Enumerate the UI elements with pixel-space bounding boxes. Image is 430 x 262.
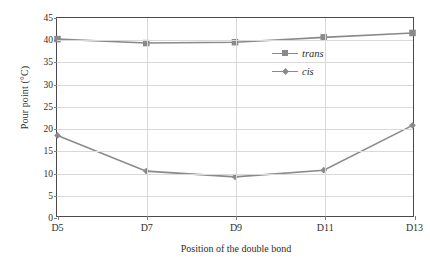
y-axis-tick-mark xyxy=(54,62,57,63)
chart-figure: Pour point (°C) 051015202530354045D5D7D9… xyxy=(0,0,430,262)
y-axis-tick-label: 5 xyxy=(48,191,53,201)
y-axis-tick-mark xyxy=(54,196,57,197)
series-trans xyxy=(54,30,416,47)
data-point-trans-D13[interactable] xyxy=(409,30,416,37)
y-axis-tick-mark xyxy=(54,40,57,41)
y-axis-tick-label: 10 xyxy=(44,169,54,179)
data-point-trans-D5[interactable] xyxy=(54,36,61,43)
x-axis-tick-mark xyxy=(58,216,59,220)
legend-label-cis: cis xyxy=(298,66,314,77)
y-axis-tick-mark xyxy=(54,85,57,86)
gridline-horizontal xyxy=(57,85,413,86)
x-axis-title: Position of the double bond xyxy=(56,243,416,254)
y-axis-tick-label: 15 xyxy=(44,146,54,156)
legend-item-trans[interactable]: trans xyxy=(272,44,358,62)
y-axis-tick-mark xyxy=(54,151,57,152)
y-axis-tick-mark xyxy=(54,107,57,108)
y-axis-tick-mark xyxy=(54,174,57,175)
x-axis-tick-mark xyxy=(415,216,416,220)
y-axis-tick-label: 20 xyxy=(44,124,54,134)
x-axis-tick-label: D13 xyxy=(406,222,423,233)
legend-label-trans: trans xyxy=(298,48,324,59)
gridline-horizontal xyxy=(57,129,413,130)
y-axis-title: Pour point (°C) xyxy=(19,28,30,168)
gridline-vertical xyxy=(147,18,148,216)
gridline-vertical xyxy=(236,18,237,216)
y-axis-tick-label: 45 xyxy=(44,13,54,23)
y-axis-tick-label: 25 xyxy=(44,102,54,112)
series-layer xyxy=(57,18,413,216)
square-marker-icon xyxy=(272,47,298,59)
diamond-marker-icon xyxy=(272,65,298,77)
legend-item-cis[interactable]: cis xyxy=(272,62,358,80)
x-axis-tick-label: D5 xyxy=(51,222,63,233)
x-axis-tick-label: D9 xyxy=(230,222,242,233)
data-point-cis-D5[interactable] xyxy=(54,132,61,139)
chart-legend: trans cis xyxy=(272,44,358,80)
y-axis-tick-label: 35 xyxy=(44,57,54,67)
plot-area: 051015202530354045D5D7D9D11D13 xyxy=(56,17,414,217)
x-axis-tick-mark xyxy=(325,216,326,220)
gridline-horizontal xyxy=(57,174,413,175)
x-axis-tick-label: D11 xyxy=(317,222,334,233)
y-axis-tick-mark xyxy=(54,129,57,130)
gridline-horizontal xyxy=(57,151,413,152)
gridline-horizontal xyxy=(57,40,413,41)
x-axis-tick-label: D7 xyxy=(141,222,153,233)
data-point-cis-D13[interactable] xyxy=(409,122,416,129)
x-axis-tick-mark xyxy=(236,216,237,220)
gridline-horizontal xyxy=(57,196,413,197)
y-axis-tick-label: 40 xyxy=(44,35,54,45)
gridline-horizontal xyxy=(57,62,413,63)
y-axis-tick-mark xyxy=(54,18,57,19)
y-axis-tick-label: 30 xyxy=(44,80,54,90)
gridline-horizontal xyxy=(57,107,413,108)
x-axis-tick-mark xyxy=(147,216,148,220)
